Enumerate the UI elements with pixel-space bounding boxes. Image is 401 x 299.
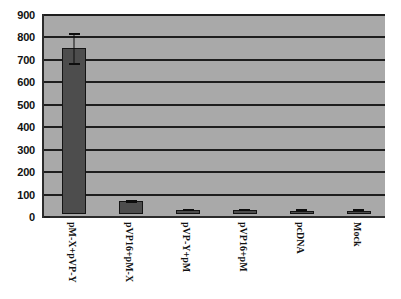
y-tick-label: 100: [17, 189, 44, 201]
x-axis-label-6: Mock: [351, 222, 362, 246]
error-cap-bottom: [239, 209, 250, 211]
bar-group: [330, 14, 387, 214]
x-label-slot: pVP16+pM-X: [101, 222, 158, 299]
bar-group: [160, 14, 217, 214]
error-cap-bottom: [296, 210, 307, 212]
plot-area: 9008007006005004003002001000: [42, 14, 385, 218]
error-cap-bottom: [183, 209, 194, 211]
x-label-slot: pVP16+pM: [215, 222, 272, 299]
y-tick-100: 100: [17, 189, 44, 201]
y-tick-label: 200: [17, 166, 44, 178]
y-tick-label: 900: [17, 9, 44, 21]
y-tick-200: 200: [17, 166, 44, 178]
y-tick-0: 0: [29, 211, 44, 223]
x-axis-label-1: pM-X+pVP-Y: [67, 222, 78, 283]
y-tick-300: 300: [17, 144, 44, 156]
bar-group: [103, 14, 160, 214]
y-tick-700: 700: [17, 54, 44, 66]
error-bar-5: [301, 209, 302, 211]
error-bar-1: [74, 33, 75, 64]
error-bar-4: [244, 209, 245, 211]
y-tick-label: 500: [17, 99, 44, 111]
y-tick-400: 400: [17, 121, 44, 133]
x-label-slot: pVP-Y+pM: [158, 222, 215, 299]
y-tick-label: 700: [17, 54, 44, 66]
y-tick-800: 800: [17, 31, 44, 43]
error-cap-top: [69, 33, 80, 35]
error-cap-bottom: [126, 201, 137, 203]
bar-2: [119, 201, 143, 214]
y-tick-label: 800: [17, 31, 44, 43]
x-label-slot: pcDNA: [271, 222, 328, 299]
y-tick-900: 900: [17, 9, 44, 21]
error-bar-3: [188, 209, 189, 211]
x-axis-label-3: pVP-Y+pM: [181, 222, 192, 272]
x-axis-label-2: pVP16+pM-X: [124, 222, 135, 282]
y-tick-label: 300: [17, 144, 44, 156]
y-tick-600: 600: [17, 76, 44, 88]
error-cap-bottom: [69, 63, 80, 65]
x-axis-label-4: pVP16+pM: [237, 222, 248, 272]
bar-group: [217, 14, 274, 214]
x-axis-label-5: pcDNA: [294, 222, 305, 254]
bar-6: [347, 211, 371, 214]
bar-chart: 9008007006005004003002001000 pM-X+pVP-Yp…: [0, 0, 401, 299]
bars-layer: [46, 14, 385, 214]
error-bar-2: [131, 200, 132, 203]
y-tick-label: 0: [29, 211, 44, 223]
y-tick-label: 600: [17, 76, 44, 88]
x-label-slot: pM-X+pVP-Y: [44, 222, 101, 299]
bar-1: [62, 48, 86, 214]
x-axis-labels: pM-X+pVP-YpVP16+pM-XpVP-Y+pMpVP16+pMpcDN…: [44, 222, 385, 299]
error-bar-6: [358, 209, 359, 211]
bar-group: [273, 14, 330, 214]
error-cap-bottom: [353, 210, 364, 212]
y-tick-mark: [44, 216, 50, 218]
y-tick-500: 500: [17, 99, 44, 111]
bar-group: [46, 14, 103, 214]
y-tick-label: 400: [17, 121, 44, 133]
x-label-slot: Mock: [328, 222, 385, 299]
